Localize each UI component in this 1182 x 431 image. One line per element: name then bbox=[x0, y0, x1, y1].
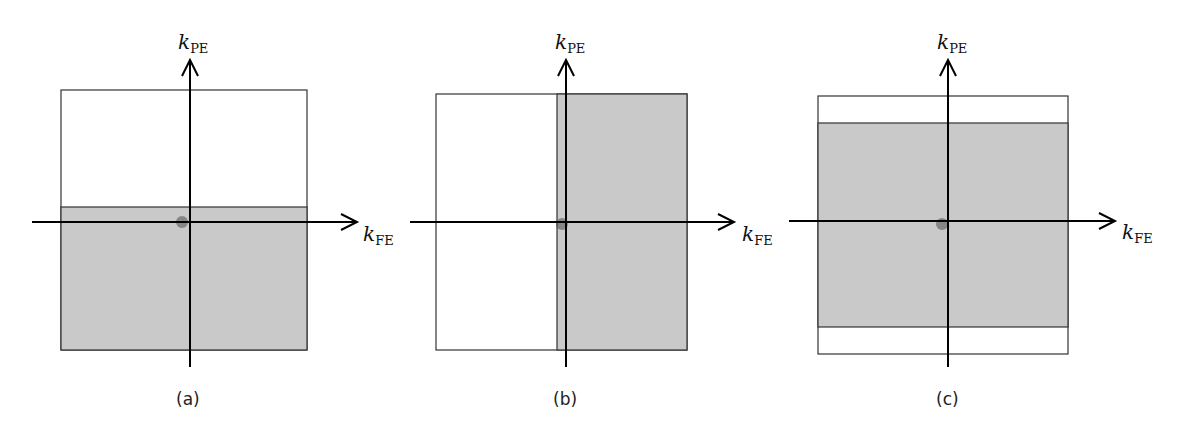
pe-axis-label: kPE bbox=[555, 30, 585, 56]
fe-axis-label: kFE bbox=[742, 222, 773, 248]
fe-axis-label: kFE bbox=[363, 222, 394, 248]
panel-c bbox=[789, 60, 1115, 367]
caption-b: (b) bbox=[553, 389, 577, 409]
caption-c: (c) bbox=[936, 389, 959, 409]
panel-b bbox=[410, 60, 734, 367]
caption-a: (a) bbox=[176, 389, 200, 409]
pe-axis-label: kPE bbox=[178, 30, 208, 56]
fe-axis-label: kFE bbox=[1122, 220, 1153, 246]
kspace-diagram bbox=[0, 0, 1182, 431]
panel-a bbox=[32, 60, 357, 367]
pe-axis-label: kPE bbox=[937, 30, 967, 56]
sampled-region bbox=[61, 207, 307, 350]
